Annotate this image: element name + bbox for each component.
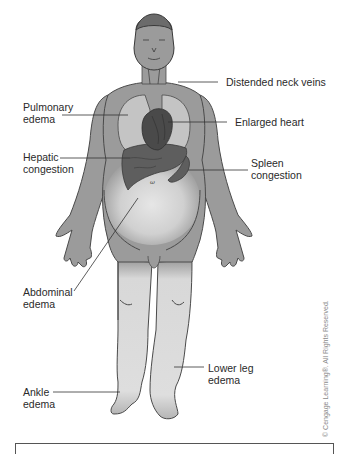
label-pulmonary-edema: Pulmonary edema (23, 101, 73, 125)
legs (111, 260, 192, 419)
copyright-notice: © Cengage Learning®. All Rights Reserved… (322, 287, 329, 437)
label-abdominal-edema: Abdominal edema (23, 286, 73, 310)
label-spleen-congestion: Spleen congestion (251, 157, 302, 181)
svg-text:ω: ω (150, 178, 155, 185)
label-ankle-edema: Ankle edema (23, 386, 55, 410)
label-hepatic-congestion: Hepatic congestion (23, 151, 74, 175)
label-distended-neck-veins: Distended neck veins (226, 76, 326, 88)
label-lower-leg-edema: Lower leg edema (208, 362, 254, 386)
label-enlarged-heart: Enlarged heart (235, 116, 304, 128)
caption-box-border (15, 443, 334, 454)
head (134, 14, 174, 70)
